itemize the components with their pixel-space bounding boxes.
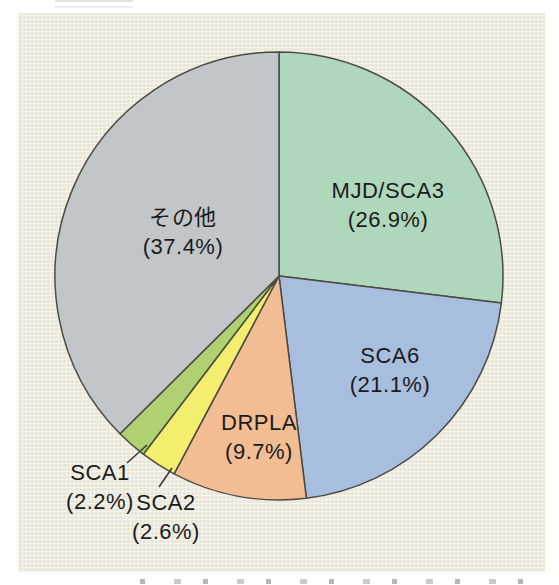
leader-line-sca2 [159, 468, 172, 487]
slice-label-sca1: SCA1 (2.2%) [66, 458, 134, 516]
slice-percent: (2.6%) [132, 517, 200, 546]
slice-label-drpla: DRPLA (9.7%) [221, 408, 297, 466]
slice-name: MJD/SCA3 [332, 178, 445, 203]
scanned-figure-page: MJD/SCA3 (26.9%) SCA6 (21.1%) DRPLA (9.7… [0, 0, 559, 585]
slice-name: その他 [149, 205, 217, 230]
slice-label-sca6: SCA6 (21.1%) [350, 341, 431, 399]
slice-label-sca2: SCA2 (2.6%) [132, 488, 200, 546]
slice-label-mjd-sca3: MJD/SCA3 (26.9%) [332, 176, 445, 234]
slice-percent: (21.1%) [350, 370, 431, 399]
slice-percent: (9.7%) [221, 437, 297, 466]
slice-percent: (26.9%) [332, 205, 445, 234]
cropped-caption-remnant-bottom [140, 579, 545, 584]
slice-name: DRPLA [221, 410, 297, 435]
slice-label-sonota: その他 (37.4%) [143, 203, 224, 261]
slice-percent: (2.2%) [66, 487, 134, 516]
slice-name: SCA1 [70, 460, 129, 485]
slice-percent: (37.4%) [143, 232, 224, 261]
slice-name: SCA6 [360, 343, 419, 368]
slice-name: SCA2 [136, 490, 195, 515]
